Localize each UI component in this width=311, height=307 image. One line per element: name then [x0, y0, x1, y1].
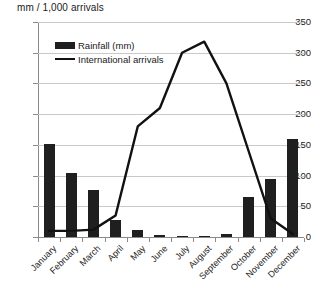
legend-line-swatch-icon: [55, 58, 75, 61]
legend-label-international-arrivals: International arrivals: [78, 53, 164, 66]
legend-label-rainfall: Rainfall (mm): [78, 39, 134, 52]
x-axis-tick-mark: [60, 238, 61, 242]
x-axis-tick-mark: [238, 238, 239, 242]
x-axis-tick-mark: [215, 238, 216, 242]
chart-legend: Rainfall (mm) International arrivals: [55, 38, 164, 66]
x-axis-tick-label: March: [79, 244, 103, 268]
x-axis-tick-mark: [38, 238, 39, 242]
x-axis-tick-mark: [260, 238, 261, 242]
legend-bar-swatch-icon: [55, 42, 75, 49]
gridline: [38, 237, 304, 238]
x-axis-tick-mark: [193, 238, 194, 242]
chart-container: mm / 1,000 arrivals 05010015020025030035…: [0, 0, 311, 307]
x-axis-tick-mark: [127, 238, 128, 242]
x-axis-tick-label: April: [106, 244, 125, 263]
x-axis-tick-mark: [149, 238, 150, 242]
x-axis-tick-mark: [82, 238, 83, 242]
x-axis-tick-mark: [105, 238, 106, 242]
x-axis-tick-mark: [304, 238, 305, 242]
x-axis-tick-mark: [282, 238, 283, 242]
x-axis-tick-mark: [171, 238, 172, 242]
x-axis-tick-label: May: [129, 244, 147, 262]
legend-item-rainfall: Rainfall (mm): [55, 38, 164, 52]
legend-item-international-arrivals: International arrivals: [55, 52, 164, 66]
arrivals-line-path: [49, 42, 293, 234]
x-axis-tick-label: June: [149, 244, 169, 264]
y-axis-title: mm / 1,000 arrivals: [17, 2, 104, 13]
